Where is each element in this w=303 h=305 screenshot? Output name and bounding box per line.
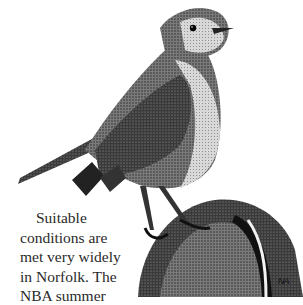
- artist-signature: NA: [278, 276, 289, 286]
- text-line: NBA summer: [20, 286, 145, 305]
- text-line: conditions are: [20, 228, 145, 248]
- text-line: met very widely: [20, 247, 145, 267]
- text-line: Suitable: [20, 208, 145, 228]
- body-paragraph: Suitable conditions are met very widely …: [20, 208, 145, 305]
- text-line: in Norfolk. The: [20, 267, 145, 287]
